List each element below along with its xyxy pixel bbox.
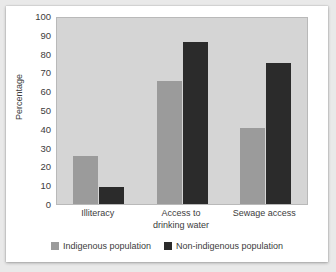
bar-group: [73, 18, 124, 204]
legend-label: Indigenous population: [63, 241, 151, 251]
bar-nonindigenous[interactable]: [266, 63, 291, 204]
y-axis-tick-label: 0: [25, 200, 51, 210]
bar-indigenous[interactable]: [240, 128, 265, 204]
y-axis-tick-label: 70: [25, 68, 51, 78]
y-axis-tick-label: 10: [25, 181, 51, 191]
y-axis-tick-labels: 1009080706050403020100: [25, 17, 51, 211]
y-axis-tick-label: 80: [25, 50, 51, 60]
y-axis-tick-label: 20: [25, 162, 51, 172]
y-axis-tick-label: 90: [25, 31, 51, 41]
bar-group: [240, 18, 291, 204]
x-axis-category-label: Illiteracy: [56, 208, 139, 220]
y-axis-tick-label: 60: [25, 87, 51, 97]
legend-label: Non-indigenous population: [176, 241, 283, 251]
legend-swatch-icon: [51, 242, 59, 250]
x-axis-category-label-line: Access to: [139, 208, 222, 220]
plot-inner: [57, 18, 307, 204]
x-axis-category-label: Sewage access: [223, 208, 306, 220]
bar-nonindigenous[interactable]: [183, 42, 208, 204]
y-axis-title: Percentage: [14, 47, 24, 147]
bar-indigenous[interactable]: [73, 156, 98, 204]
bar-indigenous[interactable]: [157, 81, 182, 204]
y-axis-tick-label: 30: [25, 144, 51, 154]
bar-group: [157, 18, 208, 204]
chart-legend: Indigenous populationNon-indigenous popu…: [6, 241, 328, 251]
bar-chart: Percentage 1009080706050403020100 Illite…: [6, 6, 328, 262]
x-axis-category-label-line: Illiteracy: [56, 208, 139, 220]
figure-card: Percentage 1009080706050403020100 Illite…: [6, 6, 328, 262]
plot-area: [56, 17, 308, 205]
y-axis-tick-label: 40: [25, 125, 51, 135]
x-axis-category-labels: IlliteracyAccess todrinking waterSewage …: [56, 208, 308, 238]
x-axis-category-label: Access todrinking water: [139, 208, 222, 231]
bar-nonindigenous[interactable]: [99, 187, 124, 204]
x-axis-category-label-line: Sewage access: [223, 208, 306, 220]
x-axis-category-label-line: drinking water: [139, 220, 222, 232]
y-axis-tick-label: 100: [25, 12, 51, 22]
y-axis-tick-label: 50: [25, 106, 51, 116]
legend-item-indigenous[interactable]: Indigenous population: [51, 241, 151, 251]
legend-item-nonindigenous[interactable]: Non-indigenous population: [164, 241, 283, 251]
legend-swatch-icon: [164, 242, 172, 250]
